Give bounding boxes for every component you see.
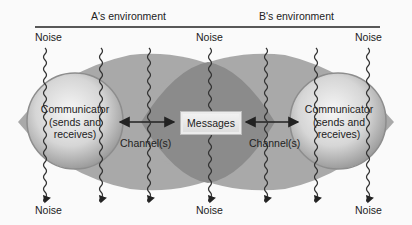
messages-box: Messages — [180, 111, 242, 135]
noise-label-bottom-center: Noise — [196, 205, 223, 216]
communicator-b-line1: Communicator — [296, 103, 382, 116]
noise-label-bottom-left: Noise — [35, 205, 62, 216]
noise-label-top-right: Noise — [355, 32, 382, 43]
channel-label-left: Channel(s) — [120, 138, 171, 149]
b-environment-label: B's environment — [259, 11, 334, 22]
communicator-a-text: Communicator (sends and receives) — [32, 103, 118, 141]
communicator-b-text: Communicator (sends and receives) — [296, 103, 382, 141]
a-environment-label: A's environment — [91, 11, 166, 22]
noise-label-top-left: Noise — [35, 32, 62, 43]
communicator-b-line3: receives) — [296, 128, 382, 141]
communicator-a-line1: Communicator — [32, 103, 118, 116]
communicator-a-line2: (sends and — [32, 116, 118, 129]
noise-label-top-center: Noise — [196, 32, 223, 43]
communicator-a-line3: receives) — [32, 128, 118, 141]
noise-label-bottom-right: Noise — [355, 205, 382, 216]
messages-label: Messages — [187, 117, 235, 129]
channel-label-right: Channel(s) — [249, 138, 300, 149]
communicator-b-line2: (sends and — [296, 116, 382, 129]
